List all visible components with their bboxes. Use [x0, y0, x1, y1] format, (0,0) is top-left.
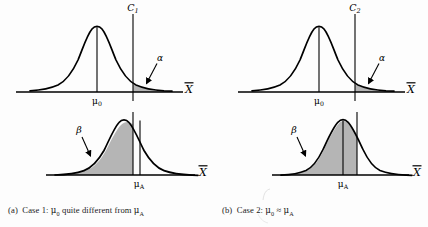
alpha-label-case1: α	[157, 53, 163, 63]
beta-label-case1: β	[75, 124, 82, 135]
xbar-label-case1-null: X	[184, 83, 194, 96]
xbar-label-case2-alt: X	[412, 166, 422, 179]
caption-case1: (a) Case 1: μ0 quite different from μA	[8, 205, 144, 217]
caption-a-muA-sub: A	[140, 210, 145, 217]
caption-a-mu0-sub: 0	[57, 210, 60, 217]
figure-background	[0, 0, 428, 227]
caption-case2: (b) Case 2: μ0 ≈ μA	[222, 205, 294, 217]
figure-container: C1 μ0 α X β μA X C2 μ0 α X	[0, 0, 428, 227]
alpha-label-case2: α	[379, 53, 385, 63]
xbar-label-case2-null: X	[406, 83, 416, 96]
hypothesis-test-figure: C1 μ0 α X β μA X C2 μ0 α X	[0, 0, 428, 227]
caption-b-lead: Case 2:	[237, 205, 263, 215]
xbar-label-case1-alt: X	[198, 166, 208, 179]
caption-b-marker: (b)	[222, 205, 232, 215]
caption-b-muA-sub: A	[289, 210, 294, 217]
caption-b-relation: ≈	[276, 205, 281, 215]
beta-label-case2: β	[290, 124, 297, 135]
caption-b-mu0-sub: 0	[271, 210, 274, 217]
caption-a-marker: (a)	[8, 205, 18, 215]
caption-a-mid: quite different from	[62, 205, 132, 215]
caption-a-lead: Case 1:	[22, 205, 48, 215]
